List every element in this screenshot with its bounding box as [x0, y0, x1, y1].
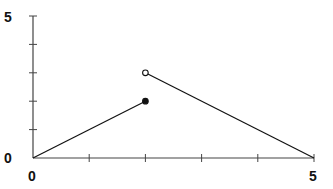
- line-segment-1: [33, 101, 145, 158]
- y-axis-min-label: 0: [4, 150, 12, 166]
- closed-endpoint-marker: [143, 98, 149, 104]
- x-axis-min-label: 0: [28, 168, 36, 184]
- line-segment-2: [145, 73, 314, 158]
- axes: [29, 16, 314, 162]
- y-axis-max-label: 5: [4, 9, 12, 25]
- open-endpoint-marker: [143, 70, 149, 76]
- x-axis-max-label: 5: [309, 168, 317, 184]
- piecewise-line-chart: 5 0 0 5: [0, 0, 333, 189]
- plot-series: [33, 70, 314, 158]
